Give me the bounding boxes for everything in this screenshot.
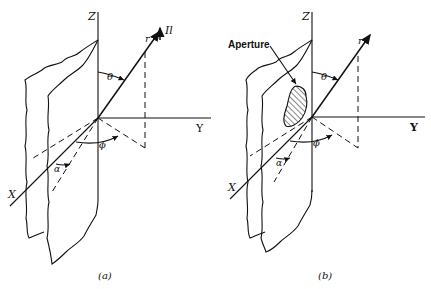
x-axis (10, 118, 98, 206)
aperture-label: Aperture (228, 39, 270, 50)
x-axis-label: X (227, 181, 237, 194)
r-label: r (145, 33, 151, 44)
diagram-canvas: Z Y X r Il θ ϕ α (a) Aperture (0, 0, 431, 289)
phi-arc (76, 136, 118, 143)
alpha-dash (52, 118, 98, 192)
phi-label: ϕ (99, 139, 106, 150)
caption-b: (b) (318, 270, 332, 281)
ground-plane-front (47, 40, 98, 264)
x-axis-label: X (7, 188, 17, 201)
x-axis (230, 117, 312, 199)
ground-plane-front (261, 40, 312, 252)
y-axis-label: Y (195, 122, 204, 135)
ground-plane-back (246, 40, 312, 238)
alpha-label: α (54, 164, 60, 174)
z-axis-label: Z (87, 10, 96, 23)
plane-trace-dash (30, 118, 98, 160)
alpha-label: α (276, 158, 282, 168)
panel-a: Z Y X r Il θ ϕ α (a) (7, 10, 211, 281)
plane-trace-dash (250, 117, 312, 156)
panel-b: Aperture Z Y X r θ ϕ α (b) (227, 10, 425, 281)
aperture (284, 86, 307, 127)
aperture-leader (270, 46, 296, 84)
y-axis-label: Y (409, 121, 418, 134)
theta-label: θ (107, 71, 113, 82)
phi-label: ϕ (313, 137, 320, 148)
source-label: Il (164, 24, 173, 37)
phi-arc (290, 135, 332, 142)
z-axis-label: Z (301, 10, 310, 23)
caption-a: (a) (98, 270, 112, 281)
ground-plane-back (25, 40, 98, 238)
theta-label: θ (321, 71, 327, 82)
